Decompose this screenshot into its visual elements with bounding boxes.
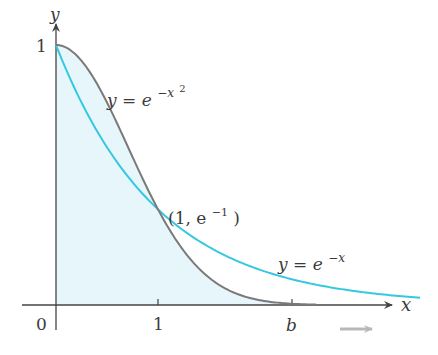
figure: y x 0 1 b 1 y = e −x 2 y = e −x (1, e −1…: [0, 0, 438, 355]
intersection-label-close: ): [233, 208, 240, 228]
x-axis-label: x: [401, 294, 411, 315]
gaussian-label-base: y = e: [106, 90, 152, 110]
x-tick-label-b: b: [286, 315, 297, 335]
intersection-label: (1, e −1 ): [168, 200, 240, 228]
intersection-label-open: (1, e: [168, 208, 206, 228]
y-axis-label: y: [49, 4, 60, 24]
origin-label: 0: [36, 314, 47, 334]
x-tick-label-1: 1: [153, 314, 164, 334]
gaussian-label: y = e −x 2: [106, 81, 186, 110]
intersection-label-exp: −1: [212, 206, 228, 219]
exponential-label-base: y = e: [277, 254, 323, 274]
gaussian-label-exp: −x: [157, 86, 174, 100]
exponential-label-exp: −x: [328, 251, 345, 265]
exponential-label: y = e −x: [277, 251, 345, 274]
y-tick-label-1: 1: [36, 36, 47, 56]
gaussian-label-exp2: 2: [179, 83, 185, 94]
